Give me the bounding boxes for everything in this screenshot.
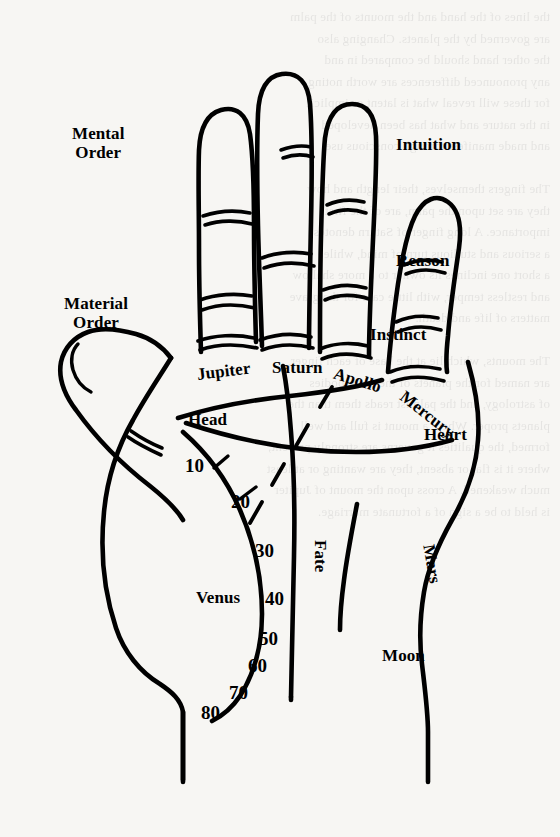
age-marker-60: 60: [248, 655, 267, 677]
thumbnail-outline: [72, 344, 91, 392]
crease-saturn-base-a: [260, 335, 311, 340]
crease-saturn-upper-a: [281, 146, 311, 150]
age-marker-30: 30: [255, 540, 274, 562]
label-moon-mount: Moon: [382, 646, 425, 665]
label-intuition: Intuition: [396, 135, 461, 154]
label-fate-line: Fate: [311, 540, 330, 573]
finger-saturn: [257, 74, 311, 348]
label-mental-order: Mental Order: [72, 124, 125, 162]
fate-line: [283, 366, 294, 697]
tick-10: [214, 456, 228, 468]
label-reason: Reason: [396, 251, 450, 270]
crease-saturn-base-b: [262, 345, 313, 350]
hand-outline-left: [103, 358, 184, 780]
thumb-outline: [60, 329, 183, 520]
crease-apollo-mid-a: [323, 286, 366, 290]
crease-mercury-mid-a: [396, 316, 438, 322]
crease-jupiter-upper-b: [205, 221, 252, 225]
age-marker-10: 10: [185, 455, 204, 477]
crease-apollo-base-b: [322, 354, 371, 359]
crease-jupiter-lower-b: [202, 305, 255, 310]
crease-apollo-mid-b: [325, 295, 369, 300]
finger-apollo: [320, 104, 376, 356]
crease-apollo-upper-a: [327, 200, 364, 205]
crease-apollo-upper-b: [329, 210, 366, 214]
crease-saturn-upper-b: [283, 155, 313, 158]
age-marker-20: 20: [231, 491, 250, 513]
age-marker-50: 50: [259, 628, 278, 650]
age-marker-40: 40: [265, 588, 284, 610]
crease-jupiter-base-b: [200, 345, 257, 350]
crease-saturn-mid-a: [262, 252, 311, 258]
moon-branch-line: [340, 504, 357, 630]
label-instinct: Instinct: [370, 325, 427, 344]
age-marker-80: 80: [201, 702, 220, 724]
crease-saturn-mid-b: [264, 263, 314, 268]
crease-mercury-base-a: [390, 367, 440, 372]
finger-jupiter: [199, 109, 256, 352]
palmistry-diagram-page: the lines of the hand and the mounts of …: [0, 0, 560, 837]
crease-mercury-upper-b: [406, 270, 445, 274]
label-venus-mount: Venus: [196, 588, 240, 607]
thumb-crease-upper: [131, 431, 162, 448]
crease-jupiter-lower-a: [200, 294, 252, 300]
crease-apollo-base-a: [320, 344, 368, 349]
crease-mercury-base-b: [392, 377, 444, 382]
finger-mercury: [388, 198, 460, 372]
label-material-order: Material Order: [64, 294, 128, 332]
age-marker-70: 70: [229, 682, 248, 704]
label-heart-line: Heart: [424, 425, 467, 444]
crease-jupiter-base-a: [198, 336, 254, 341]
label-saturn: Saturn: [272, 358, 323, 377]
label-head-line: Head: [188, 410, 227, 429]
crease-jupiter-upper-a: [203, 211, 250, 216]
